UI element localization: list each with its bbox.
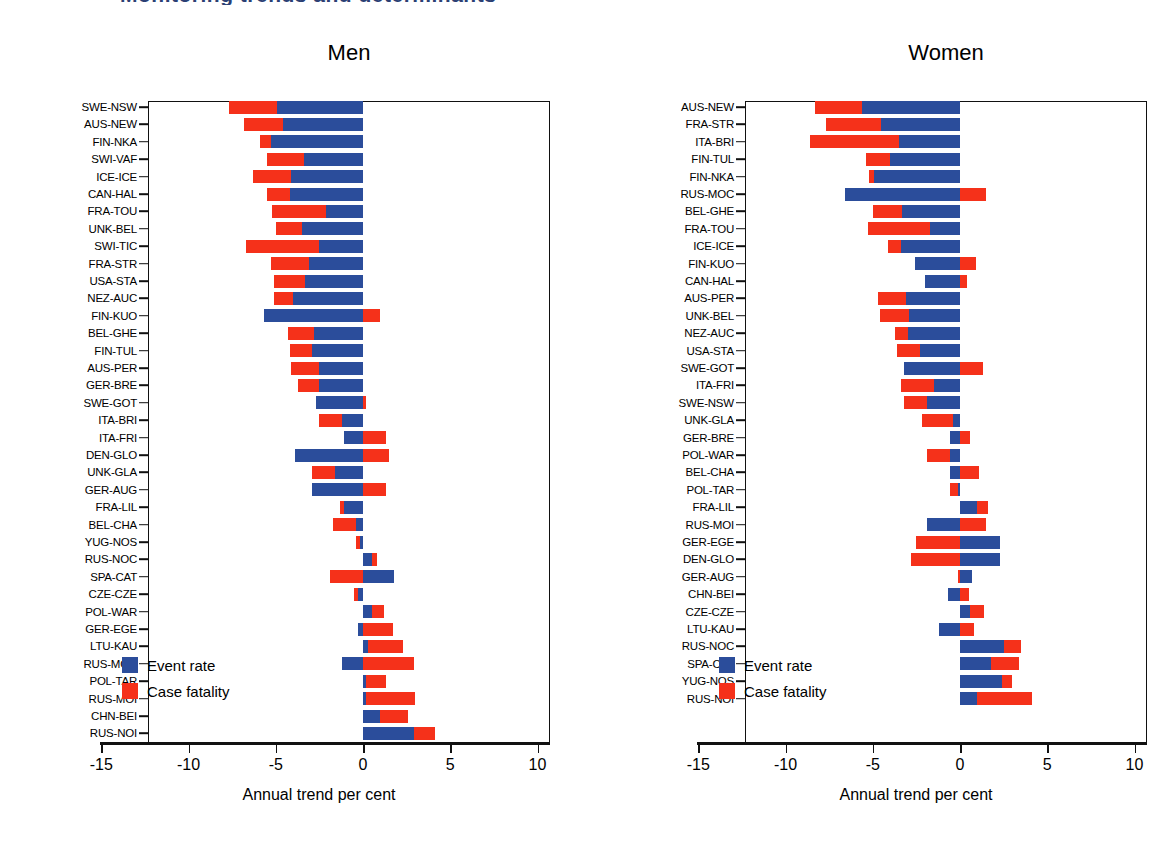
bar-case-fatality <box>960 257 976 270</box>
x-tick-label: 10 <box>529 756 547 774</box>
bar-event-rate <box>927 518 960 531</box>
bar-event-rate <box>356 518 363 531</box>
legend-label: Event rate <box>147 657 215 674</box>
bar-case-fatality <box>869 170 874 183</box>
category-tickmark <box>139 576 148 578</box>
bar-case-fatality <box>950 483 959 496</box>
category-label: CZE-CZE <box>89 588 137 600</box>
bar-event-rate <box>360 536 363 549</box>
legend-item-case-fatality[interactable]: Case fatality <box>122 681 230 701</box>
category-label: ITA-FRI <box>696 379 734 391</box>
bar-case-fatality <box>363 431 386 444</box>
category-tickmark <box>139 124 148 126</box>
bar-event-rate <box>960 692 977 705</box>
bar-case-fatality <box>960 588 969 601</box>
bar-event-rate <box>890 153 960 166</box>
bar-event-rate <box>906 292 960 305</box>
bar-event-rate <box>909 309 960 322</box>
bar-case-fatality <box>267 188 290 201</box>
category-tickmark <box>736 524 745 526</box>
category-tickmark <box>736 158 745 160</box>
bar-case-fatality <box>878 292 906 305</box>
category-tickmark <box>139 715 148 717</box>
bar-case-fatality <box>291 362 319 375</box>
bar-case-fatality <box>274 275 305 288</box>
category-label: UNK-GLA <box>87 466 137 478</box>
bar-case-fatality <box>1004 640 1021 653</box>
category-label: ICE-ICE <box>96 171 137 183</box>
bar-event-rate <box>277 101 363 114</box>
category-label: ITA-BRI <box>695 136 734 148</box>
category-tickmark <box>736 141 745 143</box>
bar-case-fatality <box>272 205 326 218</box>
category-tickmark <box>139 211 148 213</box>
category-label: FRA-STR <box>89 258 137 270</box>
category-label: POL-TAR <box>686 484 734 496</box>
bar-event-rate <box>319 379 363 392</box>
x-tick <box>538 745 540 753</box>
bar-case-fatality <box>960 275 967 288</box>
legend-swatch-fatal <box>719 683 735 699</box>
category-label: CZE-CZE <box>686 606 734 618</box>
bar-event-rate <box>950 449 960 462</box>
category-label: AUS-NEW <box>84 118 137 130</box>
bar-event-rate <box>960 536 1000 549</box>
bar-event-rate <box>904 362 960 375</box>
category-tickmark <box>736 245 745 247</box>
bar-event-rate <box>319 362 363 375</box>
bar-case-fatality <box>414 727 435 740</box>
bar-case-fatality <box>970 605 984 618</box>
bar-case-fatality <box>363 657 414 670</box>
category-tickmark <box>139 263 148 265</box>
x-tick-label: 0 <box>359 756 368 774</box>
bar-case-fatality <box>911 553 960 566</box>
bar-event-rate <box>344 431 363 444</box>
legend-label: Case fatality <box>744 683 827 700</box>
category-label: UNK-GLA <box>684 414 734 426</box>
category-label: BEL-GHE <box>88 327 137 339</box>
category-tickmark <box>736 106 745 108</box>
category-label: BEL-GHE <box>685 205 734 217</box>
bar-case-fatality <box>868 222 931 235</box>
category-label: FRA-TOU <box>685 223 735 235</box>
bar-case-fatality <box>288 327 314 340</box>
category-label: POL-WAR <box>85 606 137 618</box>
x-tick-label: 5 <box>446 756 455 774</box>
category-tickmark <box>139 419 148 421</box>
legend-item-case-fatality[interactable]: Case fatality <box>719 681 827 701</box>
bar-event-rate <box>960 675 1002 688</box>
category-tickmark <box>139 733 148 735</box>
bar-case-fatality <box>276 222 302 235</box>
category-tickmark <box>736 402 745 404</box>
bar-event-rate <box>862 101 960 114</box>
bar-case-fatality <box>244 118 282 131</box>
category-tickmark <box>736 124 745 126</box>
legend-item-event-rate[interactable]: Event rate <box>122 655 215 675</box>
bar-case-fatality <box>866 153 890 166</box>
bar-case-fatality <box>916 536 960 549</box>
category-label: FIN-KUO <box>688 258 734 270</box>
bar-event-rate <box>881 118 960 131</box>
bar-event-rate <box>958 483 960 496</box>
bar-event-rate <box>948 588 960 601</box>
category-label: RUS-MOC <box>680 188 734 200</box>
bar-case-fatality <box>330 570 363 583</box>
category-label: USA-STA <box>686 345 734 357</box>
category-tickmark <box>139 541 148 543</box>
category-tickmark <box>736 559 745 561</box>
category-tickmark <box>139 646 148 648</box>
category-label: FIN-NKA <box>689 171 734 183</box>
category-label: BEL-CHA <box>89 519 137 531</box>
category-tickmark <box>139 158 148 160</box>
category-label: CAN-HAL <box>88 188 137 200</box>
bar-case-fatality <box>927 449 950 462</box>
category-label: UNK-BEL <box>686 310 734 322</box>
legend-item-event-rate[interactable]: Event rate <box>719 655 812 675</box>
bar-event-rate <box>305 275 363 288</box>
x-tick-label: -15 <box>687 756 710 774</box>
category-tickmark <box>736 193 745 195</box>
category-tickmark <box>139 332 148 334</box>
x-tick-label: 5 <box>1043 756 1052 774</box>
bar-event-rate <box>927 396 960 409</box>
category-tickmark <box>736 419 745 421</box>
